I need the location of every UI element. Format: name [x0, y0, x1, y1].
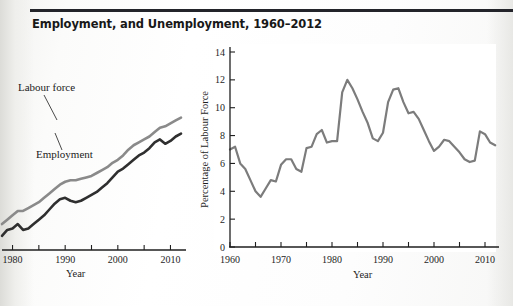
right-y-tick-label: 12 — [215, 74, 225, 85]
right-plot-card — [214, 44, 496, 252]
right-x-tick-label: 2000 — [424, 254, 444, 265]
right-chart-panel: 02468101214196019701980199020002010YearP… — [196, 40, 513, 306]
left-x-tick-label: 2010 — [160, 254, 180, 265]
figure-title: Employment, and Unemployment, 1960–2012 — [32, 17, 322, 31]
employment-labour-force-chart: 1980199020002010Year Labour forceEmploym… — [0, 40, 196, 306]
right-x-tick-label: 1990 — [373, 254, 393, 265]
labour-force-annotation: Labour force — [18, 81, 75, 93]
right-x-tick-label: 1960 — [220, 254, 240, 265]
title-rule-divider — [30, 9, 513, 12]
right-y-tick-label: 6 — [220, 158, 225, 169]
chart-figure-page: Employment, and Unemployment, 1960–2012 … — [0, 0, 513, 306]
left-chart-panel: 1980199020002010Year Labour forceEmploym… — [0, 40, 196, 306]
left-axis-group: 1980199020002010Year — [2, 245, 186, 279]
right-y-tick-label: 2 — [220, 214, 225, 225]
left-x-tick-label: 2000 — [108, 254, 128, 265]
right-x-axis-title: Year — [353, 269, 373, 280]
left-x-tick-label: 1990 — [55, 254, 75, 265]
right-x-tick-label: 1970 — [271, 254, 291, 265]
labour-force-leader-line — [44, 95, 57, 120]
left-x-tick-label: 1980 — [3, 254, 23, 265]
left-annotation-group: Labour forceEmployment — [18, 81, 93, 160]
right-y-tick-label: 0 — [220, 242, 225, 253]
right-x-tick-label: 2010 — [475, 254, 495, 265]
unemployment-rate-chart: 02468101214196019701980199020002010YearP… — [196, 40, 513, 306]
right-y-tick-label: 4 — [220, 186, 225, 197]
right-x-tick-label: 1980 — [322, 254, 342, 265]
right-y-tick-label: 10 — [215, 102, 225, 113]
right-y-tick-label: 8 — [220, 130, 225, 141]
left-series-group — [2, 118, 181, 236]
employment-annotation: Employment — [36, 148, 93, 160]
labour-force-line — [2, 118, 181, 225]
right-y-tick-label: 14 — [215, 47, 225, 58]
left-x-axis-title: Year — [66, 268, 86, 279]
right-y-axis-title: Percentage of Labour Force — [199, 91, 210, 208]
right-plot-background — [214, 44, 496, 252]
